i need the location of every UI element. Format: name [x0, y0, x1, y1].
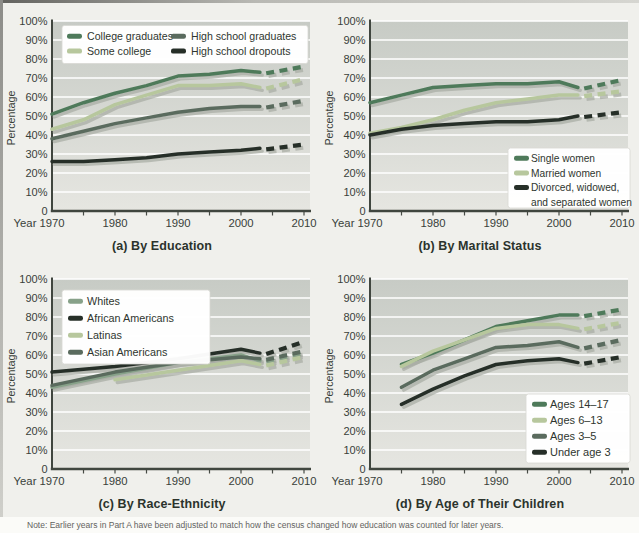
legend-label: Latinas — [87, 329, 122, 341]
panel-by-age-of-children: 010%20%30%40%50%60%70%80%90%100%19701980… — [321, 264, 639, 514]
x-tick-label: 1990 — [165, 217, 190, 229]
y-tick-label: 30% — [25, 148, 47, 160]
y-tick-label: 50% — [343, 110, 365, 122]
x-axis-title: Year — [14, 217, 37, 229]
y-tick-label: 100% — [337, 15, 365, 27]
y-axis-title: Percentage — [5, 90, 17, 145]
legend-swatch — [514, 185, 529, 190]
x-tick-label: 1970 — [357, 475, 382, 487]
x-tick-label: 1990 — [483, 475, 508, 487]
y-tick-label: 80% — [25, 53, 47, 65]
legend-swatch — [532, 434, 547, 439]
y-tick-label: 0 — [359, 205, 365, 217]
legend-label: African Americans — [87, 312, 175, 324]
legend-swatch — [67, 34, 82, 39]
x-tick-label: 2010 — [609, 217, 634, 229]
y-tick-label: 50% — [25, 110, 47, 122]
y-tick-label: 60% — [25, 91, 47, 103]
x-tick-label: 1970 — [357, 217, 382, 229]
x-tick-label: 1980 — [420, 217, 445, 229]
x-tick-label: 1970 — [39, 217, 64, 229]
y-tick-label: 60% — [343, 349, 365, 361]
legend-swatch — [532, 402, 547, 407]
x-tick-label: 2010 — [291, 475, 316, 487]
x-tick-label: 2000 — [228, 217, 253, 229]
legend-label: Some college — [87, 45, 151, 57]
y-tick-label: 100% — [19, 273, 47, 285]
legend-label: and separated women — [531, 197, 632, 208]
panel-caption: (c) By Race-Ethnicity — [3, 496, 321, 514]
legend-swatch — [514, 170, 529, 175]
legend: College graduatesSome collegeHigh school… — [62, 26, 308, 64]
x-tick-label: 1980 — [420, 475, 445, 487]
y-tick-label: 20% — [25, 425, 47, 437]
legend-swatch — [68, 299, 83, 304]
x-tick-label: 1980 — [102, 475, 127, 487]
y-tick-label: 40% — [25, 129, 47, 141]
y-tick-label: 30% — [343, 406, 365, 418]
legend-label: Ages 6–13 — [550, 414, 603, 426]
legend-swatch — [68, 316, 83, 321]
panels-grid: 010%20%30%40%50%60%70%80%90%100%19701980… — [3, 6, 639, 514]
y-tick-label: 0 — [41, 463, 47, 475]
x-tick-label: 1980 — [102, 217, 127, 229]
y-tick-label: 60% — [343, 91, 365, 103]
y-tick-label: 40% — [343, 387, 365, 399]
y-tick-label: 40% — [25, 387, 47, 399]
y-tick-label: 60% — [25, 349, 47, 361]
y-axis-title: Percentage — [323, 90, 335, 145]
y-tick-label: 20% — [25, 167, 47, 179]
legend-label: Whites — [87, 295, 121, 307]
y-tick-label: 50% — [343, 368, 365, 380]
y-tick-label: 90% — [25, 292, 47, 304]
y-tick-label: 80% — [343, 53, 365, 65]
legend-swatch — [67, 49, 82, 54]
y-tick-label: 100% — [337, 273, 365, 285]
legend-swatch — [514, 156, 529, 161]
legend-swatch — [68, 350, 83, 355]
chart-by-education: 010%20%30%40%50%60%70%80%90%100%19701980… — [4, 6, 320, 238]
legend-label: Divorced, widowed, — [531, 182, 619, 193]
y-tick-label: 10% — [25, 186, 47, 198]
y-tick-label: 10% — [343, 444, 365, 456]
y-tick-label: 50% — [25, 368, 47, 380]
legend: WhitesAfrican AmericansLatinasAsian Amer… — [62, 290, 210, 364]
y-tick-label: 70% — [25, 330, 47, 342]
panel-caption: (b) By Marital Status — [321, 238, 639, 256]
legend-swatch — [68, 333, 83, 338]
legend-label: High school dropouts — [191, 45, 291, 57]
y-tick-label: 0 — [359, 463, 365, 475]
chart-by-age-of-children: 010%20%30%40%50%60%70%80%90%100%19701980… — [322, 264, 638, 496]
panel-by-education: 010%20%30%40%50%60%70%80%90%100%19701980… — [3, 6, 321, 256]
source-note: Note: Earlier years in Part A have been … — [0, 517, 639, 530]
y-tick-label: 70% — [343, 72, 365, 84]
y-tick-label: 20% — [343, 425, 365, 437]
legend-swatch — [171, 49, 186, 54]
legend-label: Ages 3–5 — [550, 430, 596, 442]
x-tick-label: 2010 — [291, 217, 316, 229]
x-axis-title: Year — [14, 475, 37, 487]
y-tick-label: 90% — [343, 34, 365, 46]
x-tick-label: 2010 — [609, 475, 634, 487]
legend: Single womenMarried womenDivorced, widow… — [508, 148, 632, 208]
legend-label: Ages 14–17 — [550, 398, 609, 410]
legend-swatch — [171, 34, 186, 39]
x-tick-label: 1990 — [483, 217, 508, 229]
y-tick-label: 20% — [343, 167, 365, 179]
legend-label: College graduates — [87, 30, 173, 42]
y-tick-label: 10% — [343, 186, 365, 198]
legend: Ages 14–17Ages 6–13Ages 3–5Under age 3 — [526, 394, 630, 463]
legend-label: Single women — [531, 153, 595, 164]
page-top-edge — [0, 0, 639, 3]
x-tick-label: 1970 — [39, 475, 64, 487]
panel-caption: (d) By Age of Their Children — [321, 496, 639, 514]
x-tick-label: 1990 — [165, 475, 190, 487]
y-tick-label: 30% — [25, 406, 47, 418]
legend-swatch — [532, 418, 547, 423]
y-tick-label: 80% — [25, 311, 47, 323]
y-tick-label: 0 — [41, 205, 47, 217]
chart-by-race-ethnicity: 010%20%30%40%50%60%70%80%90%100%19701980… — [4, 264, 320, 496]
x-axis-title: Year — [332, 475, 355, 487]
y-tick-label: 30% — [343, 148, 365, 160]
legend-label: Asian Americans — [87, 346, 168, 358]
